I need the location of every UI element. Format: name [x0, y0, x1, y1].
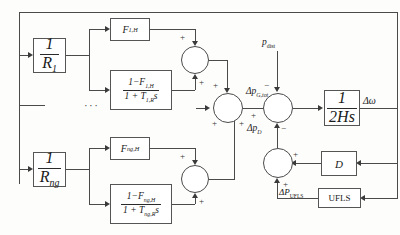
sign-main-bottom-left: + — [212, 119, 217, 128]
block-inertia: 1 2Hs — [324, 90, 360, 126]
arrow-main-sum-left — [205, 105, 210, 111]
droop-n-expression: 1 Rng — [38, 150, 62, 189]
wire-sumn-up — [234, 118, 235, 179]
arrow-sum1-bottom — [192, 74, 198, 79]
wire-feedback-top — [19, 12, 398, 13]
arrow-load-sum-bottom — [274, 178, 280, 183]
wire-feedback-right — [397, 12, 398, 198]
wire-droopn-split — [89, 148, 90, 204]
damping-expression: D — [335, 158, 343, 170]
block-droop-n: 1 Rng — [33, 152, 66, 187]
sign-sumn-top: + — [180, 152, 185, 161]
wire-lag1-up — [195, 78, 196, 90]
sign-sum1-top: + — [180, 33, 185, 42]
arrow-sum1-top — [192, 41, 198, 46]
wire-inertia-out — [360, 108, 398, 109]
wire-fhn-to-sum — [150, 148, 195, 149]
wire-sum1-down — [227, 60, 228, 90]
sign-sum1-bottom: + — [199, 78, 204, 87]
block-diagram-canvas: 1 R1 F1,H 1−F1,H 1 + T1,Rs + + + ··· 1 R… — [0, 0, 400, 235]
sign-sumn-bottom: + — [199, 197, 204, 206]
arrow-balance-bottom — [274, 123, 280, 128]
channel-ellipsis: ··· — [84, 99, 99, 111]
wire-ufls-input — [362, 198, 398, 199]
wire-droop1-split — [89, 29, 90, 90]
summer-load — [263, 148, 293, 178]
sign-balance-top: − — [264, 81, 269, 90]
sign-balance-left: + — [251, 111, 256, 120]
lag-1-expression: 1−F1,H 1 + T1,Rs — [123, 77, 160, 103]
summer-channel-1 — [181, 46, 209, 74]
wire-d-input — [358, 163, 397, 164]
arrow-sumn-top — [192, 160, 198, 165]
label-p-dist: pdist — [262, 38, 275, 50]
wire-pdist-down — [277, 51, 278, 89]
label-dp-d: ΔpD — [247, 124, 262, 136]
label-d-omega: Δω — [363, 96, 376, 106]
label-dp-ufls: ΔPUFLS — [279, 188, 303, 199]
sign-balance-bottom: − — [281, 124, 286, 133]
wire-lagn-up — [195, 197, 196, 204]
arrow-inertia-input — [318, 105, 323, 111]
fh-1-expression: F1,H — [122, 24, 137, 35]
summer-generation-total — [213, 93, 243, 123]
ufls-expression: UFLS — [328, 193, 350, 203]
lag-n-expression: 1−Fng,H 1 + Tng,Rs — [121, 191, 161, 217]
inertia-expression: 1 2Hs — [327, 90, 357, 126]
block-uflс: UFLS — [318, 188, 361, 208]
wire-sumn-out — [209, 179, 235, 180]
block-droop-1: 1 R1 — [33, 38, 66, 73]
wire-omega-down-to-d — [397, 108, 398, 164]
block-lag-n: 1−Fng,H 1 + Tng,Rs — [110, 184, 172, 224]
wire-fh1-to-sum — [150, 29, 195, 30]
arrow-balance-top — [274, 87, 280, 92]
summer-channel-n — [181, 165, 209, 193]
summer-power-balance — [263, 93, 293, 123]
sign-main-top: + — [213, 81, 218, 90]
wire-balance-to-inertia — [293, 108, 321, 109]
wire-droopn-out — [66, 169, 90, 170]
block-fh-n: Fng,H — [110, 137, 150, 160]
block-fh-1: F1,H — [110, 18, 150, 41]
wire-lag1-to-sum — [172, 90, 195, 91]
wire-ufls-up — [277, 182, 278, 198]
arrow-sumn-bottom — [192, 193, 198, 198]
wire-lagn-to-sum — [172, 204, 195, 205]
sign-main-bottom-right: + — [239, 119, 244, 128]
fh-n-expression: Fng,H — [121, 143, 139, 154]
wire-sum1-out — [209, 60, 228, 61]
wire-bus-tap-mid — [19, 105, 45, 106]
block-damping: D — [321, 151, 357, 176]
block-lag-1: 1−F1,H 1 + T1,Rs — [110, 70, 172, 110]
sign-load-sum-right: + — [293, 150, 298, 159]
wire-droop1-out — [66, 55, 90, 56]
wire-load-sum-to-balance — [277, 127, 278, 148]
wire-d-out — [293, 163, 321, 164]
droop-1-expression: 1 R1 — [40, 36, 59, 75]
wire-feedback-left — [19, 12, 20, 184]
